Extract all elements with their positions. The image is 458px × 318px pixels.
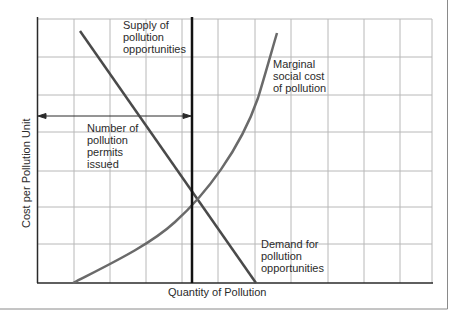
y-axis-label: Cost per Pollution Unit [20, 119, 32, 228]
figure-frame [0, 0, 448, 309]
x-axis-label: Quantity of Pollution [168, 286, 266, 298]
demand-label: Demand for pollution opportunities [261, 238, 324, 274]
chart-figure: Supply of pollution opportunities Margin… [0, 0, 458, 318]
supply-label: Supply of pollution opportunities [123, 19, 186, 55]
msc-label: Marginal social cost of pollution [273, 58, 326, 94]
permits-label: Number of pollution permits issued [87, 122, 138, 170]
permits-arrow [38, 114, 191, 119]
